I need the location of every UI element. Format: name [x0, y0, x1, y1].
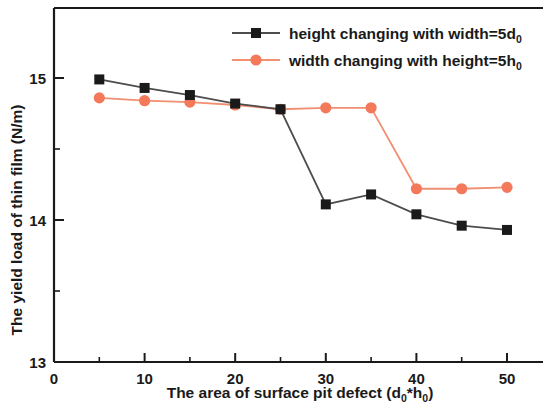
data-point-marker	[94, 92, 105, 103]
data-point-marker	[140, 83, 150, 93]
data-point-marker	[366, 102, 377, 113]
x-tick-label: 50	[499, 370, 516, 387]
y-tick-label: 14	[29, 212, 46, 229]
y-axis-title: The yield load of thin film (N/m)	[8, 105, 25, 336]
legend-subscript: 0	[516, 60, 522, 72]
x-tick-label: 0	[50, 370, 58, 387]
legend-marker	[251, 28, 261, 38]
data-point-marker	[411, 183, 422, 194]
data-point-marker	[94, 74, 104, 84]
data-point-marker	[320, 102, 331, 113]
data-point-marker	[276, 104, 286, 114]
data-point-marker	[502, 225, 512, 235]
data-point-marker	[185, 90, 195, 100]
legend-subscript: 0	[516, 33, 522, 45]
chart-figure: 01020304050 131415 height changing with …	[0, 0, 543, 412]
yield-load-line-chart: 01020304050 131415 height changing with …	[0, 0, 543, 412]
data-point-marker	[366, 189, 376, 199]
data-point-marker	[501, 182, 512, 193]
y-tick-label: 13	[29, 354, 46, 371]
data-point-marker	[456, 183, 467, 194]
data-point-marker	[139, 95, 150, 106]
y-tick-label: 15	[29, 70, 46, 87]
legend-marker	[250, 54, 261, 65]
x-tick-label: 10	[136, 370, 153, 387]
data-point-marker	[457, 221, 467, 231]
data-point-marker	[230, 99, 240, 109]
data-point-marker	[321, 199, 331, 209]
data-point-marker	[411, 209, 421, 219]
